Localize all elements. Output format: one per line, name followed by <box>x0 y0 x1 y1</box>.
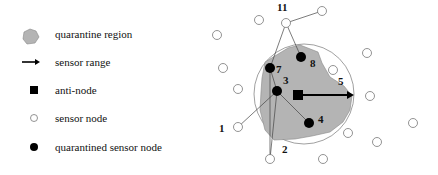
node-label-7: 7 <box>276 64 282 75</box>
node-label-4: 4 <box>318 114 324 125</box>
legend-label-quarantined-sensor-node: quarantined sensor node <box>55 142 162 153</box>
node-label-2: 2 <box>282 144 288 155</box>
filled-square-icon <box>30 86 38 94</box>
arrow-icon <box>22 59 40 65</box>
anti-node <box>293 90 303 100</box>
legend-label-quarantine-region: quarantine region <box>55 29 132 40</box>
hollow-circle-icon <box>31 115 38 122</box>
filled-circle-icon <box>30 143 38 151</box>
node-label-3: 3 <box>283 75 289 86</box>
legend-label-anti-node: anti-node <box>55 85 97 96</box>
node-label-11: 11 <box>277 2 287 13</box>
legend-label-sensor-node: sensor node <box>55 113 107 124</box>
legend-label-sensor-range: sensor range <box>55 57 110 68</box>
node-label-1: 1 <box>219 123 225 134</box>
node-label-8: 8 <box>310 58 316 69</box>
node-label-5: 5 <box>338 76 344 87</box>
quarantine-region-icon <box>23 29 39 44</box>
